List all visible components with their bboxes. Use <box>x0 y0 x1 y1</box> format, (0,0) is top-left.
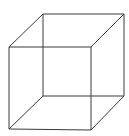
edge-top-right <box>91 14 124 47</box>
edge-bottom-right <box>91 96 124 130</box>
edge-top-left <box>9 14 43 47</box>
edge-bottom-left <box>9 96 43 129</box>
cube-wireframe <box>0 0 129 136</box>
necker-cube-diagram <box>0 0 129 136</box>
